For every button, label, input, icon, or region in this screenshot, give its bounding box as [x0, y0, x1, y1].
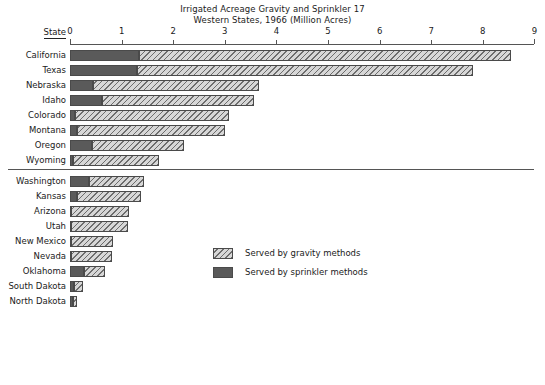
bar-segment-gravity [71, 251, 112, 262]
bar-row-label: Idaho [0, 93, 66, 108]
bar-row: California [0, 48, 545, 63]
bar-segment-sprinkler [70, 140, 92, 151]
x-axis-tick [225, 40, 226, 44]
bar-row-label: Nevada [0, 249, 66, 264]
bar-row: Washington [0, 174, 545, 189]
stacked-bar [70, 221, 128, 232]
bar-segment-gravity [71, 221, 128, 232]
bar-segment-gravity [71, 206, 129, 217]
bar-segment-sprinkler [70, 266, 84, 277]
bar-row-label: North Dakota [0, 294, 66, 309]
bar-segment-gravity [102, 95, 254, 106]
bar-row-label: Oregon [0, 138, 66, 153]
bar-segment-sprinkler [70, 80, 93, 91]
chart-subtitle: Western States, 1966 (Million Acres) [0, 15, 545, 26]
x-axis-tick [328, 40, 329, 44]
x-axis-tick-label: 8 [480, 26, 485, 36]
stacked-bar [70, 155, 159, 166]
stacked-bar [70, 296, 77, 307]
x-axis-tick [534, 39, 535, 44]
bar-row-label: New Mexico [0, 234, 66, 249]
legend-item: Served by gravity methods [213, 248, 413, 260]
bar-row: Nebraska [0, 78, 545, 93]
stacked-bar [70, 206, 129, 217]
chart-root: Irrigated Acreage Gravity and Sprinkler … [0, 0, 545, 385]
x-axis-tick-label: 6 [377, 26, 382, 36]
bar-row-label: Washington [0, 174, 66, 189]
bar-row: Kansas [0, 189, 545, 204]
bar-segment-gravity [74, 281, 83, 292]
bar-segment-gravity [75, 110, 229, 121]
stacked-bar [70, 140, 184, 151]
legend-swatch-sprinkler [213, 267, 233, 278]
x-axis-tick [431, 40, 432, 44]
bar-row: Texas [0, 63, 545, 78]
chart-legend: Served by gravity methodsServed by sprin… [213, 248, 413, 282]
bar-row: Wyoming [0, 153, 545, 168]
legend-label: Served by gravity methods [245, 248, 360, 259]
bar-row: Utah [0, 219, 545, 234]
x-axis-tick [70, 39, 71, 44]
stacked-bar [70, 95, 254, 106]
bar-row: Oregon [0, 138, 545, 153]
bar-row-label: Kansas [0, 189, 66, 204]
bar-segment-gravity [89, 176, 144, 187]
legend-item: Served by sprinkler methods [213, 267, 413, 279]
bar-row-label: Montana [0, 123, 66, 138]
bar-row-label: Utah [0, 219, 66, 234]
stacked-bar [70, 236, 113, 247]
bar-segment-gravity [71, 236, 113, 247]
bar-row-label: California [0, 48, 66, 63]
bar-row-label: South Dakota [0, 279, 66, 294]
stacked-bar [70, 251, 112, 262]
bar-segment-sprinkler [70, 125, 77, 136]
bar-segment-gravity [77, 125, 225, 136]
bar-row-label: Wyoming [0, 153, 66, 168]
bar-segment-gravity [73, 155, 159, 166]
bar-row-label: Oklahoma [0, 264, 66, 279]
x-axis-tick-label: 7 [428, 26, 433, 36]
x-axis-tick-label: 3 [222, 26, 227, 36]
bar-segment-sprinkler [70, 65, 137, 76]
bar-row: North Dakota [0, 294, 545, 309]
bar-row: Idaho [0, 93, 545, 108]
stacked-bar [70, 266, 105, 277]
stacked-bar [70, 65, 473, 76]
bar-segment-gravity [84, 266, 105, 277]
x-axis-tick-labels: 0123456789 [0, 26, 545, 38]
bar-segment-gravity [92, 140, 183, 151]
x-axis-tick-label: 4 [274, 26, 279, 36]
x-axis-tick-label: 5 [325, 26, 330, 36]
bar-row: Arizona [0, 204, 545, 219]
bar-segment-gravity [73, 296, 77, 307]
stacked-bar [70, 176, 144, 187]
x-axis-tick-label: 9 [532, 26, 537, 36]
bar-row-label: Nebraska [0, 78, 66, 93]
legend-swatch-gravity [213, 248, 233, 259]
bar-segment-gravity [139, 50, 511, 61]
legend-label: Served by sprinkler methods [245, 267, 368, 278]
group-divider [8, 169, 534, 170]
x-axis-tick [122, 40, 123, 44]
bar-row-label: Texas [0, 63, 66, 78]
bar-segment-gravity [77, 191, 141, 202]
stacked-bar [70, 191, 141, 202]
bar-segment-sprinkler [70, 95, 102, 106]
bar-segment-sprinkler [70, 191, 77, 202]
x-axis-tick [380, 40, 381, 44]
x-axis-tick [276, 40, 277, 44]
x-axis-tick [483, 40, 484, 44]
bar-row-label: Arizona [0, 204, 66, 219]
bar-row: New Mexico [0, 234, 545, 249]
x-axis-line [70, 44, 534, 45]
stacked-bar [70, 50, 511, 61]
chart-title-block: Irrigated Acreage Gravity and Sprinkler … [0, 4, 545, 26]
x-axis-tick-label: 2 [170, 26, 175, 36]
bar-segment-sprinkler [70, 176, 89, 187]
bar-row: Montana [0, 123, 545, 138]
chart-title: Irrigated Acreage Gravity and Sprinkler … [0, 4, 545, 15]
bar-segment-sprinkler [70, 50, 139, 61]
bar-row-label: Colorado [0, 108, 66, 123]
x-axis-tick [173, 40, 174, 44]
stacked-bar [70, 110, 229, 121]
